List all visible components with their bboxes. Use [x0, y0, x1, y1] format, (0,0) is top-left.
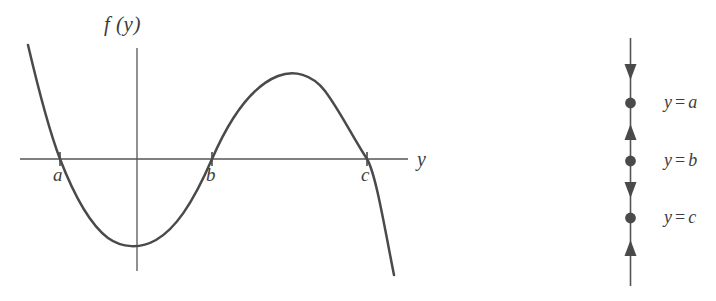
phase-line-label-b: y=b — [664, 151, 697, 169]
phase-label-variable-a: y — [664, 92, 672, 112]
phase-label-variable-c: y — [664, 207, 672, 227]
cubic-curve — [28, 45, 394, 275]
figure-container: f (y) y a b c y=a y=b y=c — [0, 0, 716, 301]
phase-label-value-a: a — [688, 92, 697, 112]
phase-line-label-c: y=c — [664, 208, 696, 226]
phase-line-label-a: y=a — [664, 93, 697, 111]
vertical-axis-label: f (y) — [104, 14, 141, 35]
root-label-c: c — [361, 165, 369, 184]
phase-line-panel — [625, 38, 637, 286]
phase-label-equals-b: = — [672, 150, 688, 170]
graph-panel — [20, 45, 408, 275]
phase-arrow-up-1 — [625, 124, 637, 140]
root-label-a: a — [53, 165, 63, 184]
figure-svg — [0, 0, 716, 301]
phase-arrow-down-2 — [625, 182, 637, 198]
phase-label-value-c: c — [688, 207, 696, 227]
phase-label-equals-a: = — [672, 92, 688, 112]
phase-arrow-up-2 — [625, 240, 637, 256]
phase-label-value-b: b — [688, 150, 697, 170]
phase-equilibrium-dot-a — [625, 98, 636, 109]
root-label-b: b — [206, 165, 216, 184]
phase-equilibrium-dot-b — [625, 156, 636, 167]
phase-equilibrium-dot-c — [625, 213, 636, 224]
phase-arrow-down-1 — [625, 64, 637, 80]
phase-label-variable-b: y — [664, 150, 672, 170]
horizontal-axis-label: y — [417, 149, 426, 169]
phase-label-equals-c: = — [672, 207, 688, 227]
